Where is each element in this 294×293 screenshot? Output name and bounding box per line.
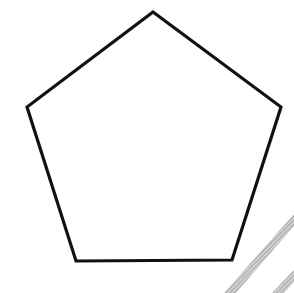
hatch-stripe xyxy=(272,270,294,293)
pentagon-shape xyxy=(27,12,281,261)
diagram-canvas xyxy=(0,0,294,293)
